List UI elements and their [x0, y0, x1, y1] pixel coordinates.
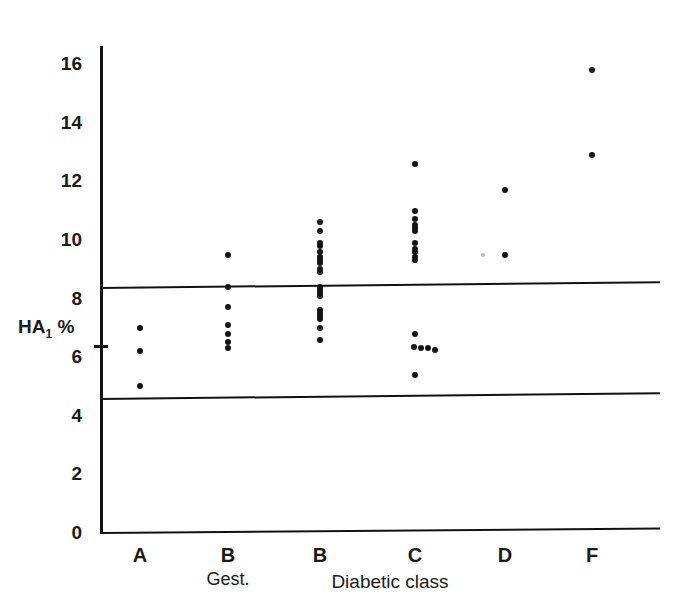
data-point [225, 252, 231, 258]
y-axis-title-subscript: 1 [45, 327, 52, 341]
data-point [317, 243, 323, 249]
data-point [317, 293, 323, 299]
data-point [137, 325, 143, 331]
x-tick-note-1: Gest. [188, 570, 268, 588]
data-point [317, 228, 323, 234]
data-point [225, 331, 231, 337]
data-point [589, 152, 595, 158]
x-tick-label-5: F [562, 545, 622, 565]
y-tick-label: 10 [48, 230, 82, 249]
y-axis-title-text: HA [18, 316, 45, 337]
y-tick-label: 0 [48, 523, 82, 542]
y-axis-title-unit: % [57, 316, 74, 337]
data-point [589, 67, 595, 73]
x-tick-label-4: D [475, 545, 535, 565]
reference-line-lower-normal-limit [100, 392, 660, 400]
reference-line-upper-normal-limit [100, 281, 660, 289]
data-point [502, 187, 508, 193]
data-point [502, 252, 508, 258]
data-point-faint [481, 253, 485, 257]
data-point [432, 347, 438, 353]
data-point [425, 345, 431, 351]
x-tick-label-1: B [198, 545, 258, 565]
x-tick-label-3: C [385, 545, 445, 565]
x-tick-label-0: A [110, 545, 170, 565]
x-axis-line [100, 528, 660, 535]
y-tick-label: 6 [48, 347, 82, 366]
data-point [418, 345, 424, 351]
data-point [225, 322, 231, 328]
data-point [412, 372, 418, 378]
data-point [317, 269, 323, 275]
y-tick-label: 12 [48, 171, 82, 190]
data-point [137, 383, 143, 389]
data-point [412, 228, 418, 234]
data-point [317, 316, 323, 322]
y-axis-line [100, 46, 103, 534]
data-point [137, 348, 143, 354]
data-point [412, 208, 418, 214]
data-point [317, 325, 323, 331]
x-axis-title: Diabetic class [280, 572, 500, 591]
scatter-chart: HA1 % 0246810121416 ABGest.BCDF Diabetic… [0, 0, 676, 599]
y-tick-label: 14 [48, 113, 82, 132]
x-tick-label-2: B [290, 545, 350, 565]
data-point [317, 337, 323, 343]
y-tick-label: 4 [48, 406, 82, 425]
data-point [225, 284, 231, 290]
data-point [412, 161, 418, 167]
data-point [412, 240, 418, 246]
data-point [317, 219, 323, 225]
y-tick-label: 8 [48, 289, 82, 308]
data-point [225, 345, 231, 351]
data-point [225, 304, 231, 310]
y-tick-label: 16 [48, 54, 82, 73]
data-point [411, 344, 417, 350]
y-axis-title: HA1 % [18, 316, 74, 341]
y-tick-label: 2 [48, 464, 82, 483]
y-tick-mark-mean [94, 345, 108, 348]
data-point [412, 257, 418, 263]
data-point [412, 331, 418, 337]
